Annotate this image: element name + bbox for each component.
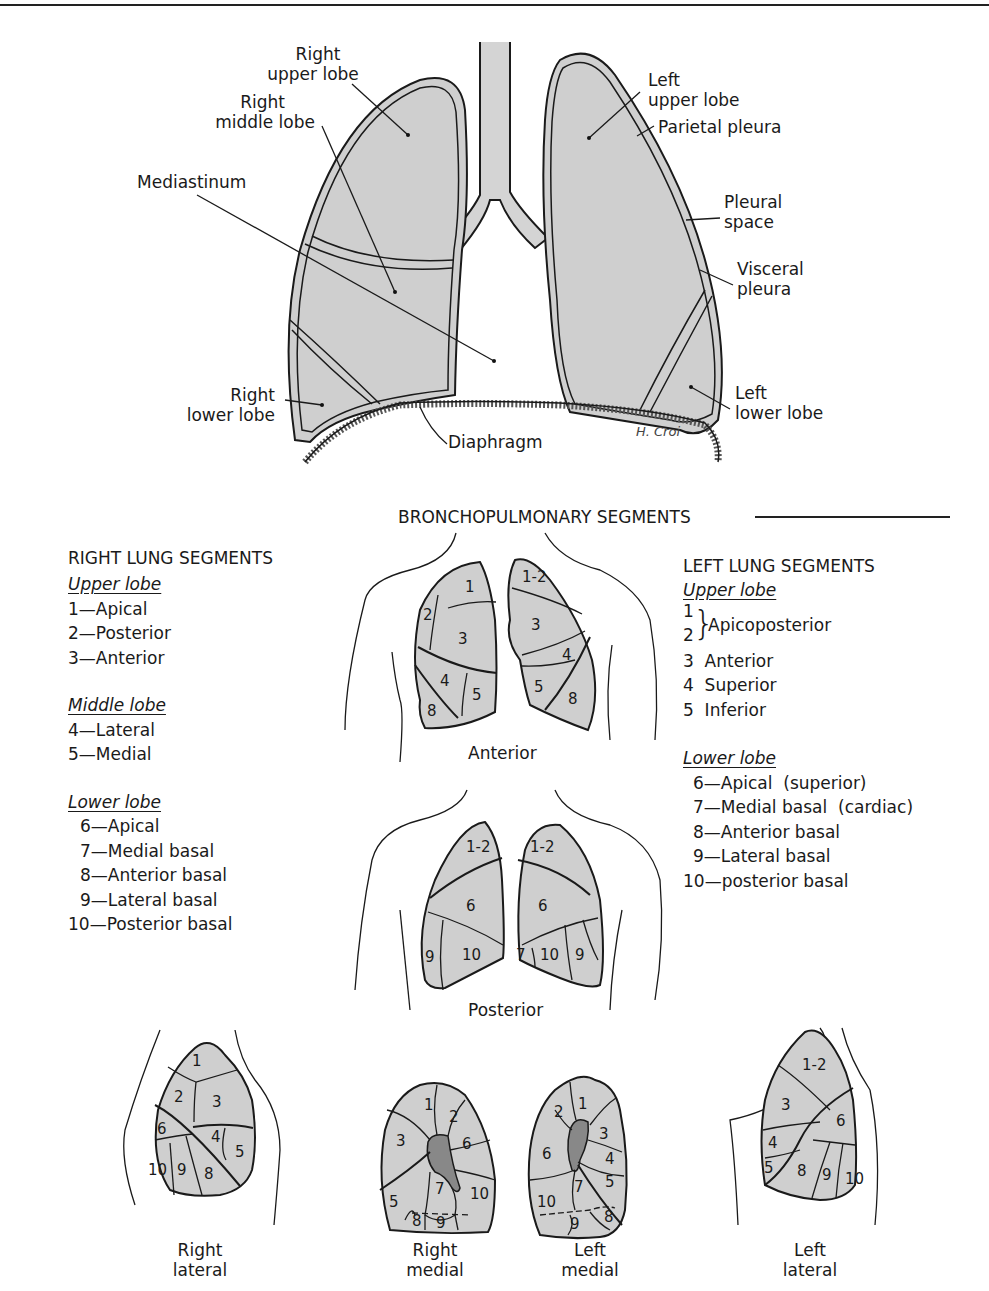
group-title: Upper lobe	[683, 578, 913, 603]
list-item: 7—Medial basal	[68, 839, 232, 864]
segment-label: 10	[462, 946, 481, 964]
list-item: 4 Superior	[683, 673, 913, 698]
artist-signature: H. Croi	[636, 422, 680, 442]
segment-label: 8	[568, 690, 578, 708]
left-lung-outline	[543, 54, 722, 434]
segment-label: 7	[516, 946, 526, 964]
anterior-caption: Anterior	[468, 743, 537, 763]
caption-line: Right	[405, 1240, 465, 1260]
posterior-caption: Posterior	[468, 1000, 543, 1020]
segment-label: 8	[204, 1165, 214, 1183]
right-medial-caption: Right medial	[405, 1240, 465, 1280]
segment-label: 2	[449, 1108, 459, 1126]
segment-label: 5	[389, 1193, 399, 1211]
caption-line: medial	[560, 1260, 620, 1280]
segment-label: 1	[192, 1052, 202, 1070]
label-line: Right	[273, 44, 363, 64]
right-lateral-caption: Right lateral	[170, 1240, 230, 1280]
segment-label: 1-2	[466, 838, 491, 856]
caption-line: Left	[780, 1240, 840, 1260]
right-lateral-view	[124, 1030, 280, 1225]
segment-label: 8	[797, 1162, 807, 1180]
left-medial-caption: Left medial	[560, 1240, 620, 1280]
list-item: 5 Inferior	[683, 698, 913, 723]
segment-label: 5	[534, 678, 544, 696]
group-title: Lower lobe	[683, 746, 913, 771]
segment-label: 3	[781, 1096, 791, 1114]
label-line: lower lobe	[175, 405, 275, 425]
list-item: 9—Lateral basal	[68, 888, 232, 913]
label-line: middle lobe	[200, 112, 315, 132]
left-lateral-caption: Left lateral	[780, 1240, 840, 1280]
label-line: upper lobe	[263, 64, 363, 84]
segment-label: 3	[599, 1125, 609, 1143]
segment-label: 9	[177, 1161, 187, 1179]
left-lung-heading: LEFT LUNG SEGMENTS	[683, 556, 875, 576]
caption-line: lateral	[170, 1260, 230, 1280]
label-line: Left	[648, 70, 740, 90]
segment-label: 9	[575, 946, 585, 964]
label-line: Visceral	[737, 259, 804, 279]
list-item: 1—Apical	[68, 597, 232, 622]
list-item: 8—Anterior basal	[683, 820, 913, 845]
segment-label: 3	[458, 630, 468, 648]
caption-line: Right	[170, 1240, 230, 1260]
list-item: 10—posterior basal	[683, 869, 913, 894]
label-pleural-space: Pleural space	[724, 192, 782, 232]
segment-label: 5	[764, 1159, 774, 1177]
label-line: upper lobe	[648, 90, 740, 110]
segment-label: 8	[427, 702, 437, 720]
caption-line: medial	[405, 1260, 465, 1280]
segment-label: 10	[537, 1193, 556, 1211]
label-left-lower-lobe: Left lower lobe	[735, 383, 823, 423]
segment-label: 9	[822, 1166, 832, 1184]
segment-label: 1	[465, 578, 475, 596]
segment-label: 9	[436, 1214, 446, 1232]
list-item: 5—Medial	[68, 742, 232, 767]
label-line: lower lobe	[735, 403, 823, 423]
segment-label: 5	[472, 686, 482, 704]
segment-label: 8	[604, 1208, 614, 1226]
segment-label: 6	[157, 1120, 167, 1138]
segment-label: 1-2	[522, 568, 547, 586]
segment-label: 6	[836, 1112, 846, 1130]
segment-label: 9	[570, 1215, 580, 1233]
right-lung-list: Upper lobe 1—Apical 2—Posterior 3—Anteri…	[68, 572, 232, 937]
label-mediastinum: Mediastinum	[137, 172, 246, 192]
anterior-view	[345, 533, 657, 762]
segment-label: 10	[540, 946, 559, 964]
segment-label: 4	[211, 1128, 221, 1146]
group-title: Middle lobe	[68, 693, 232, 718]
posterior-view	[355, 790, 662, 1010]
list-item: 10—Posterior basal	[68, 912, 232, 937]
segment-label: 1	[578, 1095, 588, 1113]
segment-label: 10	[148, 1161, 167, 1179]
list-item: 6—Apical (superior)	[683, 771, 913, 796]
list-item: 9—Lateral basal	[683, 844, 913, 869]
segment-label: 1	[424, 1096, 434, 1114]
segment-label: 6	[542, 1145, 552, 1163]
apicoposterior-item: 1 2 } Apicoposterior	[683, 603, 913, 649]
segment-label: 2	[174, 1088, 184, 1106]
segment-label: 10	[470, 1185, 489, 1203]
right-lung-heading: RIGHT LUNG SEGMENTS	[68, 548, 273, 568]
segment-label: 10	[845, 1170, 864, 1188]
caption-line: Left	[560, 1240, 620, 1260]
segment-label: 6	[462, 1135, 472, 1153]
segment-label: 1-2	[802, 1056, 827, 1074]
segment-label: 1-2	[530, 838, 555, 856]
left-lung-list: Upper lobe 1 2 } Apicoposterior 3 Anteri…	[683, 578, 913, 893]
label-right-middle-lobe: Right middle lobe	[200, 92, 315, 132]
list-item: 3 Anterior	[683, 649, 913, 674]
segment-label: 2	[423, 606, 433, 624]
label-right-upper-lobe: Right upper lobe	[273, 44, 363, 84]
list-item: 3—Anterior	[68, 646, 232, 671]
section-title: BRONCHOPULMONARY SEGMENTS	[398, 507, 691, 527]
group-title: Upper lobe	[68, 572, 232, 597]
label-line: Right	[175, 385, 275, 405]
segment-label: 3	[212, 1093, 222, 1111]
segment-label: 3	[396, 1132, 406, 1150]
label-line: space	[724, 212, 782, 232]
segment-label: 6	[466, 897, 476, 915]
list-item: 7—Medial basal (cardiac)	[683, 795, 913, 820]
